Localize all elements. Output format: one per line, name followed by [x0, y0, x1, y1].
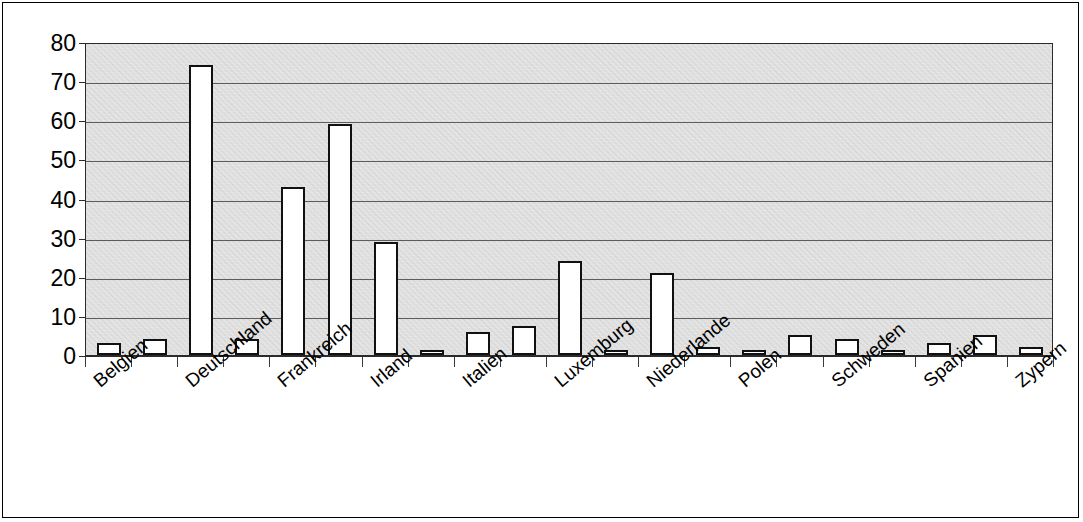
y-axis-tick-label: 60 [14, 110, 76, 133]
x-axis-tick-mark [85, 357, 86, 367]
x-axis-tick-mark [269, 357, 270, 367]
bar [281, 187, 305, 355]
bar [558, 261, 582, 355]
y-axis-tick-mark [79, 121, 85, 122]
y-axis-tick-mark [79, 43, 85, 44]
gridline [86, 240, 1052, 241]
y-axis-tick-mark [79, 356, 85, 357]
gridline [86, 83, 1052, 84]
y-axis-labels: 01020304050607080 [0, 0, 76, 522]
gridline [86, 201, 1052, 202]
bar [420, 350, 444, 355]
bar [650, 273, 674, 355]
x-axis-tick-mark [638, 357, 639, 367]
y-axis-tick-mark [79, 82, 85, 83]
y-axis-tick-mark [79, 160, 85, 161]
y-axis-tick-mark [79, 317, 85, 318]
x-axis-tick-mark [546, 357, 547, 367]
y-axis-tick-label: 50 [14, 149, 76, 172]
bar [189, 65, 213, 355]
y-axis-tick-label: 80 [14, 32, 76, 55]
y-axis-tick-label: 0 [14, 345, 76, 368]
y-axis-tick-label: 20 [14, 266, 76, 289]
x-axis-tick-mark [362, 357, 363, 367]
y-axis-tick-mark [79, 239, 85, 240]
x-axis-tick-mark [730, 357, 731, 367]
plot-area [85, 43, 1053, 356]
y-axis-tick-label: 40 [14, 188, 76, 211]
bar [788, 335, 812, 355]
y-axis-tick-label: 10 [14, 305, 76, 328]
x-axis-tick-mark [1007, 357, 1008, 367]
gridline [86, 122, 1052, 123]
x-axis-tick-mark [823, 357, 824, 367]
y-axis-tick-mark [79, 278, 85, 279]
gridline [86, 161, 1052, 162]
y-axis-tick-label: 30 [14, 227, 76, 250]
y-axis-tick-label: 70 [14, 71, 76, 94]
x-axis-tick-mark [915, 357, 916, 367]
x-axis-tick-mark [177, 357, 178, 367]
bar-chart-figure: 01020304050607080 BelgienDeutschlandFran… [0, 0, 1083, 522]
y-axis-tick-mark [79, 200, 85, 201]
bar [512, 326, 536, 355]
bar [374, 242, 398, 355]
x-axis-tick-mark [454, 357, 455, 367]
